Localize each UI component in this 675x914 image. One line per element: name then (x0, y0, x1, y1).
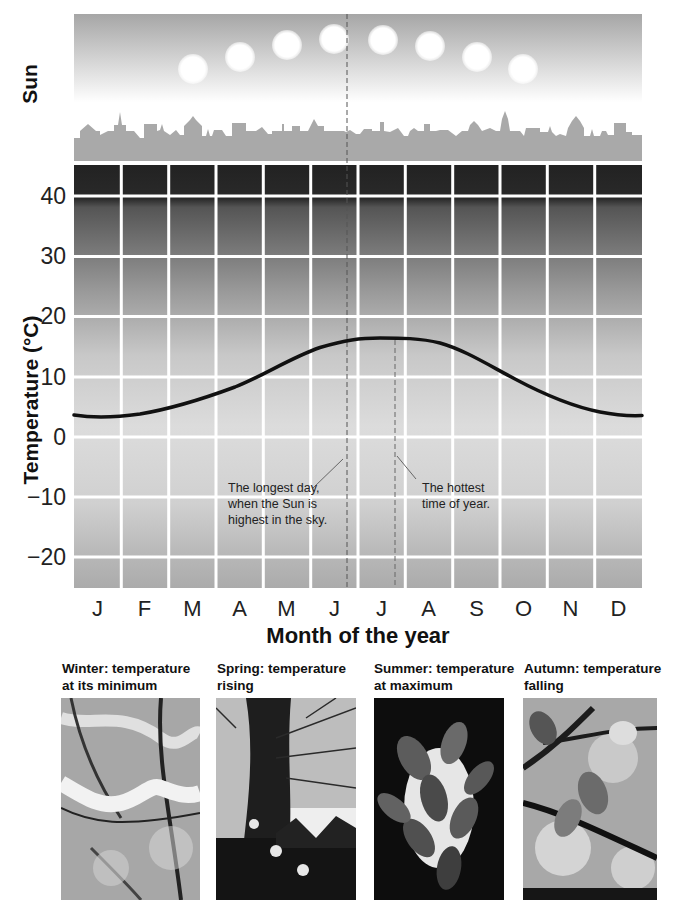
summer-photo (374, 698, 504, 900)
summer-leaves-icon (374, 698, 504, 900)
annotation-line: when the Sun is (228, 496, 327, 512)
x-tick-feb: F (121, 596, 168, 622)
x-tick-dec: D (595, 596, 642, 622)
sun-panel (74, 14, 642, 161)
y-tick-minus-20: −20 (0, 545, 66, 569)
x-tick-mar: M (169, 596, 216, 622)
temperature-grid (74, 165, 642, 588)
sun-icon (415, 31, 445, 61)
y-tick-minus-10: −10 (0, 485, 66, 509)
x-tick-aug: A (405, 596, 452, 622)
y-tick-30: 30 (0, 244, 66, 268)
x-tick-may: M (263, 596, 310, 622)
autumn-caption: Autumn: temperature falling (524, 660, 661, 694)
tree-daffodils-icon (216, 698, 356, 900)
summer-caption: Summer: temperature at maximum (374, 660, 514, 694)
winter-caption: Winter: temperature at its minimum (62, 660, 190, 694)
winter-photo (61, 698, 200, 900)
caption-line: at maximum (374, 677, 514, 694)
spring-photo (216, 698, 356, 900)
caption-line: at its minimum (62, 677, 190, 694)
x-tick-sep: S (453, 596, 500, 622)
y-axis-label: Temperature (°C) (11, 380, 51, 420)
x-axis-label: Month of the year (74, 623, 642, 649)
sun-icon (319, 24, 349, 54)
x-tick-oct: O (500, 596, 547, 622)
frosted-branch-icon (61, 698, 200, 900)
annotation-line: The longest day, (228, 480, 327, 496)
caption-line: rising (217, 677, 346, 694)
annotation-line: The hottest (422, 480, 490, 496)
longest-day-annotation: The longest day, when the Sun is highest… (228, 480, 327, 528)
sun-icon (225, 42, 255, 72)
autumn-photo (523, 698, 657, 900)
x-tick-jul: J (358, 596, 405, 622)
x-tick-nov: N (547, 596, 594, 622)
y-tick-40: 40 (0, 184, 66, 208)
x-tick-jan: J (74, 596, 121, 622)
autumn-leaves-icon (523, 698, 657, 900)
sun-icon (178, 54, 208, 84)
sun-icon (272, 30, 302, 60)
caption-line: falling (524, 677, 661, 694)
x-tick-apr: A (216, 596, 263, 622)
x-tick-jun: J (311, 596, 358, 622)
hottest-time-annotation: The hottest time of year. (422, 480, 490, 512)
caption-line: Summer: temperature (374, 660, 514, 677)
caption-line: Autumn: temperature (524, 660, 661, 677)
caption-line: Spring: temperature (217, 660, 346, 677)
y-axis-label-text: Temperature (°C) (19, 315, 43, 484)
spring-caption: Spring: temperature rising (217, 660, 346, 694)
sun-icon (368, 25, 398, 55)
sun-icon (462, 42, 492, 72)
caption-line: Winter: temperature (62, 660, 190, 677)
sun-icon (508, 54, 538, 84)
annotation-line: time of year. (422, 496, 490, 512)
annotation-line: highest in the sky. (228, 512, 327, 528)
